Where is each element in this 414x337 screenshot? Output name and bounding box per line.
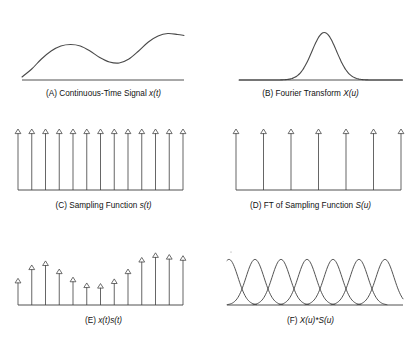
- panel-a-caption: (A) Continuous-Time Signal x(t): [0, 88, 207, 99]
- panel-a-plot: [0, 4, 207, 88]
- panel-a-caption-text: (A) Continuous-Time Signal: [46, 89, 149, 98]
- panel-d-caption-math: S(u): [355, 201, 371, 210]
- panel-c-plot: [0, 112, 207, 200]
- panel-f-caption: (F) X(u)*S(u): [207, 315, 414, 326]
- impulse-arrowhead-icon: [233, 129, 239, 134]
- panel-d-ft-of-sampling-function: (D) FT of Sampling Function S(u): [207, 112, 414, 222]
- impulse-arrowhead-icon: [288, 129, 294, 134]
- spectral-replica-curve: [331, 259, 387, 304]
- panel-e-plot: [0, 227, 207, 315]
- spectral-replica-curve: [253, 259, 309, 304]
- impulse-arrowhead-icon: [15, 129, 21, 134]
- impulse-arrowhead-icon: [343, 129, 349, 134]
- impulse-arrowhead-icon: [166, 255, 172, 260]
- panel-b-fourier-transform: (B) Fourier Transform X(u): [207, 4, 414, 110]
- panel-e-caption-text: (E): [85, 316, 98, 325]
- impulse-arrowhead-icon: [125, 129, 131, 134]
- impulse-arrowhead-icon: [398, 129, 404, 134]
- spectral-replica-curves: [227, 259, 403, 304]
- impulse-arrowhead-icon: [180, 256, 186, 261]
- impulse-arrowhead-icon: [98, 284, 104, 289]
- impulse-arrowhead-icon: [153, 129, 159, 134]
- panel-b-caption-text: (B) Fourier Transform: [262, 89, 343, 98]
- impulse-arrowhead-icon: [371, 129, 377, 134]
- impulse-arrowhead-icon: [139, 257, 145, 262]
- panel-f-plot: [207, 227, 414, 315]
- panel-d-caption: (D) FT of Sampling Function S(u): [207, 200, 414, 211]
- panel-d-plot: [207, 112, 414, 200]
- panel-f-caption-math: X(u)*S(u): [300, 316, 334, 325]
- impulse-arrowhead-icon: [111, 279, 117, 284]
- impulse-arrowhead-icon: [261, 129, 267, 134]
- panel-b-caption-math: X(u): [343, 89, 359, 98]
- panel-a-caption-math: x(t): [149, 89, 161, 98]
- panel-f-convolved-spectrum: (F) X(u)*S(u): [207, 227, 414, 337]
- panel-e-caption: (E) x(t)s(t): [0, 315, 207, 326]
- impulse-arrowhead-icon: [29, 129, 35, 134]
- panel-f-caption-text: (F): [287, 316, 300, 325]
- impulse-arrowhead-icon: [29, 265, 35, 270]
- sampling-impulse-train: [15, 129, 186, 190]
- impulse-arrowhead-icon: [166, 129, 172, 134]
- impulse-arrowhead-icon: [70, 129, 76, 134]
- panel-a-continuous-time-signal: (A) Continuous-Time Signal x(t): [0, 4, 207, 110]
- panel-c-sampling-function: (C) Sampling Function s(t): [0, 112, 207, 222]
- impulse-arrowhead-icon: [43, 261, 49, 266]
- continuous-signal-curve: [22, 33, 184, 77]
- sampling-theorem-figure: (A) Continuous-Time Signal x(t) (B) Four…: [0, 0, 414, 337]
- impulse-arrowhead-icon: [70, 277, 76, 282]
- impulse-arrowhead-icon: [139, 129, 145, 134]
- stray-mark: [230, 251, 231, 252]
- sampled-signal-impulse-train: [15, 253, 186, 305]
- panel-e-caption-math: x(t)s(t): [98, 316, 122, 325]
- panel-c-caption-text: (C) Sampling Function: [55, 201, 139, 210]
- impulse-arrowhead-icon: [84, 283, 90, 288]
- spectral-replica-curve: [305, 259, 361, 304]
- panel-d-caption-text: (D) FT of Sampling Function: [250, 201, 356, 210]
- panel-b-caption: (B) Fourier Transform X(u): [207, 88, 414, 99]
- panel-c-caption-math: s(t): [140, 201, 152, 210]
- impulse-arrowhead-icon: [180, 129, 186, 134]
- fourier-transform-curve: [239, 32, 402, 80]
- impulse-arrowhead-icon: [56, 129, 62, 134]
- impulse-arrowhead-icon: [15, 278, 21, 283]
- spectral-replica-curve: [227, 259, 257, 304]
- impulse-arrowhead-icon: [98, 129, 104, 134]
- panel-b-plot: [207, 4, 414, 88]
- impulse-arrowhead-icon: [56, 269, 62, 274]
- impulse-arrowhead-icon: [111, 129, 117, 134]
- impulse-arrowhead-icon: [125, 269, 131, 274]
- spectral-replica-curve: [227, 259, 283, 304]
- impulse-arrowhead-icon: [153, 253, 159, 258]
- impulse-arrowhead-icon: [84, 129, 90, 134]
- impulse-arrowhead-icon: [316, 129, 322, 134]
- impulse-arrowhead-icon: [43, 129, 49, 134]
- spectral-replica-curve: [279, 259, 335, 304]
- ft-sampling-impulse-train: [233, 129, 404, 190]
- panel-e-sampled-signal: (E) x(t)s(t): [0, 227, 207, 337]
- panel-c-caption: (C) Sampling Function s(t): [0, 200, 207, 211]
